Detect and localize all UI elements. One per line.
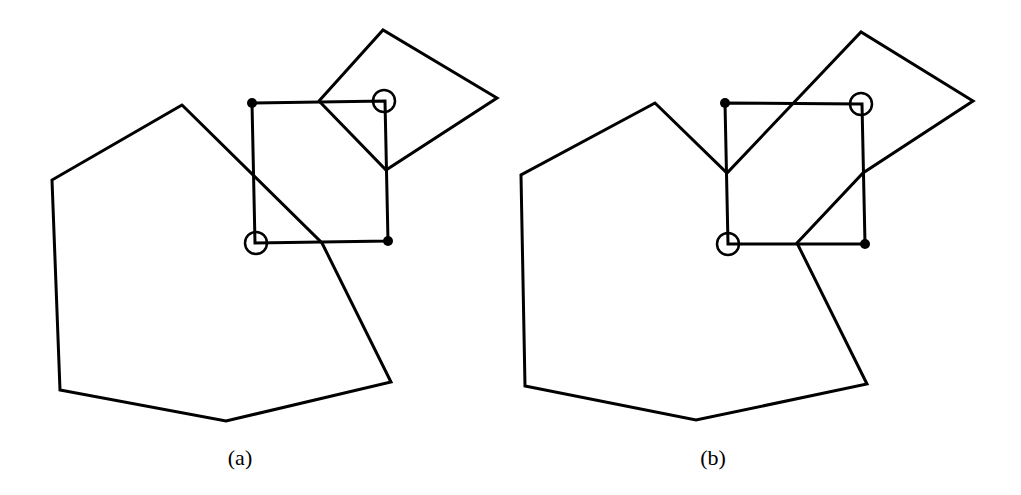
small-polygon-a bbox=[319, 30, 497, 170]
filled-vertex-dot bbox=[247, 98, 257, 108]
circled-vertex-markers-b bbox=[717, 93, 872, 255]
caption-a: (a) bbox=[228, 445, 252, 471]
filled-vertex-dot bbox=[383, 236, 393, 246]
clip-square-b bbox=[725, 103, 865, 244]
circled-vertex-markers-a bbox=[245, 90, 395, 254]
large-polygon-a bbox=[52, 105, 391, 421]
polygon-clipping-diagram bbox=[0, 0, 1021, 495]
clip-square-a bbox=[252, 101, 388, 243]
filled-vertex-dot bbox=[860, 239, 870, 249]
filled-vertex-markers-a bbox=[247, 98, 393, 246]
panel-a bbox=[52, 30, 497, 421]
filled-vertex-dot bbox=[720, 98, 730, 108]
merged-polygon-b bbox=[521, 32, 973, 420]
panel-b bbox=[521, 32, 973, 420]
caption-b: (b) bbox=[700, 445, 726, 471]
filled-vertex-markers-b bbox=[720, 98, 870, 249]
